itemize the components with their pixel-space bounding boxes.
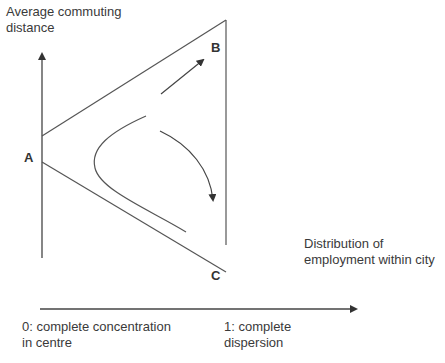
point-b-label: B: [211, 40, 220, 55]
x-max-label-line2: dispersion: [224, 335, 283, 351]
x-axis-label-line2: employment within city: [304, 252, 435, 268]
point-a-label: A: [24, 150, 33, 165]
upper-boundary-line: [42, 20, 226, 136]
diagram-canvas: [0, 0, 445, 363]
x-min-label-line2: in centre: [22, 335, 72, 351]
x-axis-label-line1: Distribution of: [304, 236, 383, 252]
lower-boundary-line: [42, 162, 226, 272]
arrow-to-b: [161, 60, 203, 94]
trajectory-curve: [94, 116, 186, 232]
arrow-down-curve: [160, 131, 213, 200]
point-c-label: C: [211, 268, 220, 283]
x-max-label-line1: 1: complete: [224, 319, 291, 335]
x-min-label-line1: 0: complete concentration: [22, 319, 171, 335]
